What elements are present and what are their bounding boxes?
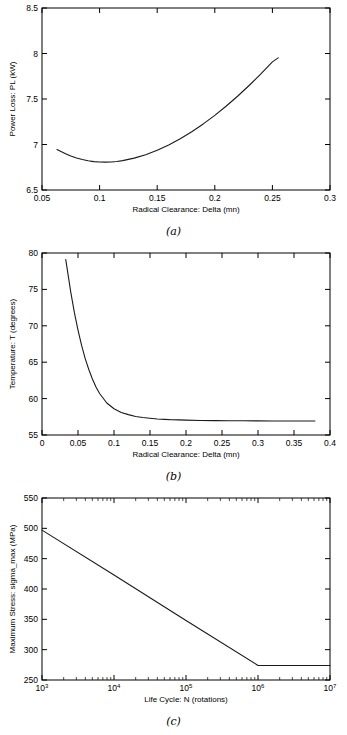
- figure-container: 0.050.10.150.20.250.36.577.588.5 Radical…: [0, 0, 347, 735]
- panel-a-caption: (a): [0, 226, 347, 237]
- panel-b-data-curve: [66, 260, 315, 421]
- x-tick-label: 107: [324, 683, 337, 694]
- panel-c-ticks: [42, 498, 330, 680]
- y-tick-label: 450: [24, 554, 38, 564]
- panel-b-yaxis-title: Temperature: T (degrees): [8, 298, 17, 389]
- x-tick-label: 0.15: [142, 438, 159, 448]
- panel-a-xaxis-title: Radical Clearance: Delta (mn): [132, 205, 239, 214]
- x-tick-label: 0.3: [252, 438, 264, 448]
- y-tick-label: 70: [29, 321, 39, 331]
- panel-a-plot: 0.050.10.150.20.250.36.577.588.5 Radical…: [0, 0, 347, 245]
- panel-b-xaxis-title: Radical Clearance: Delta (mn): [132, 450, 239, 459]
- panel-c-caption: (c): [0, 716, 347, 727]
- y-tick-label: 55: [29, 430, 39, 440]
- x-tick-label: 0.1: [94, 193, 106, 203]
- panel-b-tick-labels: 00.050.10.150.20.250.30.350.455606570758…: [29, 248, 337, 448]
- x-tick-label: 0.4: [324, 438, 336, 448]
- x-tick-label: 0: [40, 438, 45, 448]
- x-tick-label: 0.25: [264, 193, 281, 203]
- panel-c-xaxis-title: Life Cycle: N (rotations): [144, 695, 228, 704]
- panel-c-axes: [42, 498, 330, 680]
- panel-c-plot: 103104105106107250300350400450500550 Lif…: [0, 490, 347, 735]
- panel-c-data-curve: [42, 530, 330, 665]
- panel-a-data-curve: [57, 58, 278, 162]
- panel-a-tick-labels: 0.050.10.150.20.250.36.577.588.5: [26, 3, 336, 203]
- x-tick-label: 0.1: [108, 438, 120, 448]
- y-tick-label: 250: [24, 675, 38, 685]
- panel-a-yaxis-title: Power Loss: PL (kW): [8, 61, 17, 136]
- x-tick-label: 104: [108, 683, 121, 694]
- y-tick-label: 7.5: [26, 94, 38, 104]
- y-tick-label: 500: [24, 523, 38, 533]
- y-tick-label: 300: [24, 645, 38, 655]
- panel-b-ticks: [42, 253, 330, 435]
- y-tick-label: 80: [29, 248, 39, 258]
- x-tick-label: 0.3: [324, 193, 336, 203]
- x-tick-label: 105: [180, 683, 193, 694]
- x-tick-label: 0.15: [149, 193, 166, 203]
- panel-b-plot: 00.050.10.150.20.250.30.350.455606570758…: [0, 245, 347, 490]
- x-tick-label: 0.2: [180, 438, 192, 448]
- x-tick-label: 0.05: [70, 438, 87, 448]
- panel-b: 00.050.10.150.20.250.30.350.455606570758…: [0, 245, 347, 490]
- y-tick-label: 550: [24, 493, 38, 503]
- x-tick-label: 106: [252, 683, 265, 694]
- x-tick-label: 0.35: [286, 438, 303, 448]
- y-tick-label: 65: [29, 357, 39, 367]
- panel-b-caption: (b): [0, 471, 347, 482]
- panel-c-tick-labels: 103104105106107250300350400450500550: [24, 493, 337, 693]
- y-tick-label: 8.5: [26, 3, 38, 13]
- y-tick-label: 7: [33, 140, 38, 150]
- x-tick-label: 0.25: [214, 438, 231, 448]
- y-tick-label: 8: [33, 49, 38, 59]
- y-tick-label: 6.5: [26, 185, 38, 195]
- panel-a-axes: [42, 8, 330, 190]
- panel-c-yaxis-title: Maximum Stress: sigma_max (MPa): [8, 524, 17, 653]
- y-tick-label: 400: [24, 584, 38, 594]
- panel-c: 103104105106107250300350400450500550 Lif…: [0, 490, 347, 735]
- x-tick-label: 0.2: [209, 193, 221, 203]
- panel-b-axes: [42, 253, 330, 435]
- panel-a-ticks: [42, 8, 330, 190]
- y-tick-label: 60: [29, 394, 39, 404]
- y-tick-label: 75: [29, 284, 39, 294]
- panel-a: 0.050.10.150.20.250.36.577.588.5 Radical…: [0, 0, 347, 245]
- y-tick-label: 350: [24, 614, 38, 624]
